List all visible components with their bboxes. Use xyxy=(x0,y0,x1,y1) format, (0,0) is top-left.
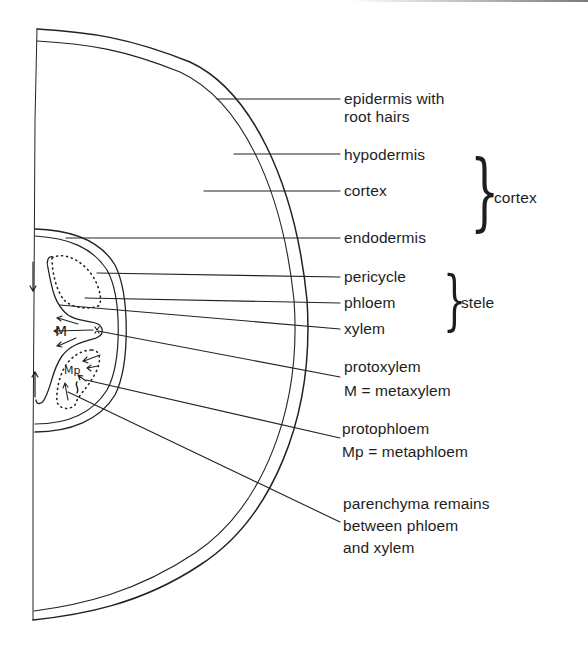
label-phloem: phloem xyxy=(344,293,395,312)
label-cortex: cortex xyxy=(344,181,387,200)
arrow-upper-vertical xyxy=(30,262,36,291)
label-protoxylem-line2: M = metaxylem xyxy=(344,381,451,400)
label-hypodermis: hypodermis xyxy=(344,145,425,164)
label-epidermis-line2: root hairs xyxy=(344,107,410,126)
label-endodermis: endodermis xyxy=(344,228,426,247)
label-parenchyma-line1: parenchyma remains xyxy=(343,494,490,513)
leader-phloem xyxy=(85,298,340,303)
label-protoxylem-line1: protoxylem xyxy=(344,357,421,376)
label-protophloem-line2: Mp = metaphloem xyxy=(342,442,468,461)
leader-protophloem xyxy=(86,380,340,438)
label-pericycle: pericycle xyxy=(344,267,406,286)
leader-protoxylem xyxy=(98,331,340,377)
label-parenchyma-line2: between phloem xyxy=(343,516,458,535)
protoxylem-mark xyxy=(95,327,99,333)
phloem-patch-upper xyxy=(52,256,100,308)
metaxylem-mark: M xyxy=(55,322,67,341)
label-parenchyma-line3: and xylem xyxy=(343,538,415,557)
leader-xylem xyxy=(60,305,340,329)
metaphloem-mark: Mp xyxy=(64,361,81,380)
section-axis-line xyxy=(33,29,37,620)
label-stele-group: stele xyxy=(461,293,494,312)
arrow-phloem-4 xyxy=(63,383,68,400)
label-xylem: xylem xyxy=(344,319,385,338)
root-section-drawing xyxy=(0,0,588,654)
arrow-phloem-5 xyxy=(76,382,78,393)
epidermis-outer-edge xyxy=(33,29,308,620)
arrow-phloem-1 xyxy=(83,355,100,363)
label-epidermis-line1: epidermis with xyxy=(344,89,444,108)
label-cortex-group: cortex xyxy=(494,188,537,207)
label-protophloem-line1: protophloem xyxy=(342,419,429,438)
